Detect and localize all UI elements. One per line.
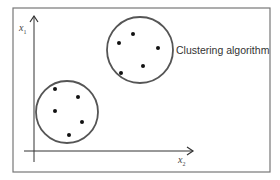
clustering-diagram bbox=[0, 0, 280, 180]
data-point bbox=[80, 120, 84, 124]
lower-left-cluster bbox=[36, 81, 98, 143]
data-point bbox=[156, 46, 160, 50]
data-point bbox=[53, 87, 57, 91]
data-point bbox=[131, 32, 135, 36]
data-point bbox=[53, 109, 57, 113]
clustering-algorithm-label: Clustering algorithm bbox=[176, 44, 269, 56]
data-point bbox=[76, 95, 80, 99]
frame-border bbox=[13, 8, 270, 172]
data-point bbox=[117, 41, 121, 45]
data-point bbox=[141, 64, 145, 68]
x-axis-label: x2 bbox=[178, 154, 185, 167]
y-axis-label: x1 bbox=[19, 22, 26, 35]
cluster-boundary-circle bbox=[107, 17, 173, 83]
data-point bbox=[67, 133, 71, 137]
data-point bbox=[119, 71, 123, 75]
clusters-group bbox=[36, 17, 173, 143]
cluster-boundary-circle bbox=[36, 81, 98, 143]
upper-right-cluster bbox=[107, 17, 173, 83]
